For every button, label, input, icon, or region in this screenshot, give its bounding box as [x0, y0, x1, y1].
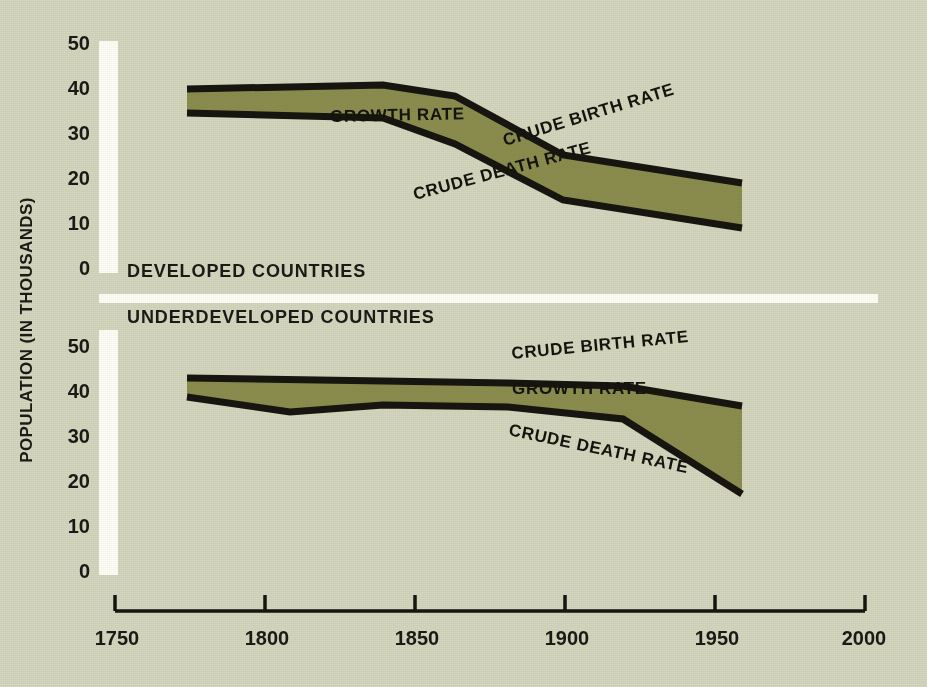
y-tick-bottom-10: 10: [68, 515, 90, 537]
y-tick-bottom-30: 30: [68, 425, 90, 447]
x-axis-line: [115, 595, 865, 611]
y-axis-bar-top: [99, 41, 118, 273]
developed-growth-rate-label: GROWTH RATE: [330, 104, 465, 126]
panel-divider: [99, 294, 878, 303]
y-tick-bottom-0: 0: [79, 560, 90, 582]
underdeveloped-crude-birth-rate-label: CRUDE BIRTH RATE: [511, 327, 690, 363]
chart-figure: 50 40 30 20 10 0 50 40 30 20 10 0 POPULA…: [0, 0, 927, 687]
underdeveloped-growth-rate-label: GROWTH RATE: [512, 379, 647, 398]
panel-title-developed: DEVELOPED COUNTRIES: [127, 261, 366, 281]
x-tick-1850: 1850: [395, 627, 440, 649]
panel-developed: GROWTH RATE CRUDE BIRTH RATE CRUDE DEATH…: [127, 80, 742, 281]
y-tick-top-0: 0: [79, 257, 90, 279]
y-tick-top-10: 10: [68, 212, 90, 234]
x-tick-2000: 2000: [842, 627, 887, 649]
y-tick-top-30: 30: [68, 122, 90, 144]
y-tick-top-50: 50: [68, 32, 90, 54]
chart-plot-area: 50 40 30 20 10 0 50 40 30 20 10 0 POPULA…: [0, 0, 927, 687]
x-tick-1800: 1800: [245, 627, 290, 649]
panel-underdeveloped: CRUDE BIRTH RATE GROWTH RATE CRUDE DEATH…: [127, 307, 742, 494]
x-tick-1950: 1950: [695, 627, 740, 649]
y-tick-bottom-50: 50: [68, 335, 90, 357]
y-tick-bottom-40: 40: [68, 380, 90, 402]
panel-title-underdeveloped: UNDERDEVELOPED COUNTRIES: [127, 307, 435, 327]
y-axis-bar-bottom: [99, 330, 118, 575]
x-tick-1900: 1900: [545, 627, 590, 649]
y-tick-top-40: 40: [68, 77, 90, 99]
x-tick-1750: 1750: [95, 627, 140, 649]
y-tick-bottom-20: 20: [68, 470, 90, 492]
y-tick-top-20: 20: [68, 167, 90, 189]
y-axis-title: POPULATION (IN THOUSANDS): [17, 197, 36, 463]
